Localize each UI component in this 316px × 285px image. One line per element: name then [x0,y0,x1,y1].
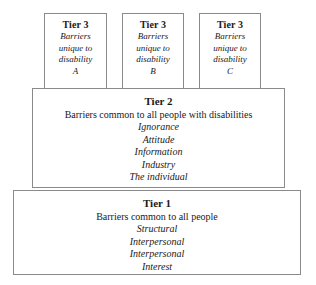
tier2-item-3: Information [33,146,284,159]
tier2-item-5: The individual [33,171,284,184]
tier2-heading: Tier 2 [33,94,284,108]
tier3-c-line-1: Barriers [200,31,260,43]
tier-pyramid-diagram: Tier 3 Barriers unique to disability A T… [0,0,316,285]
tier3-a-line-3: disability [45,54,106,66]
tier3-b-line-1: Barriers [123,31,183,43]
tier1-heading: Tier 1 [14,196,300,210]
tier3-box-a: Tier 3 Barriers unique to disability A [44,13,107,91]
tier3-c-line-4: C [200,66,260,78]
tier3-a-line-1: Barriers [45,31,106,43]
tier2-item-1: Ignorance [33,121,284,134]
tier3-b-heading: Tier 3 [123,19,183,31]
tier3-a-line-2: unique to [45,43,106,55]
tier1-item-1: Structural [14,223,300,236]
tier3-box-b: Tier 3 Barriers unique to disability B [122,13,184,91]
tier1-item-2: Interpersonal [14,236,300,249]
tier3-c-heading: Tier 3 [200,19,260,31]
tier2-box: Tier 2 Barriers common to all people wit… [32,88,285,188]
tier1-item-3: Interpersonal [14,248,300,261]
tier2-subheading: Barriers common to all people with disab… [33,108,284,121]
tier3-b-line-2: unique to [123,43,183,55]
tier3-a-line-4: A [45,66,106,78]
tier1-subheading: Barriers common to all people [14,210,300,223]
tier1-box: Tier 1 Barriers common to all people Str… [13,190,301,275]
tier1-item-4: Interest [14,261,300,274]
tier2-item-2: Attitude [33,134,284,147]
tier3-a-heading: Tier 3 [45,19,106,31]
tier2-item-4: Industry [33,159,284,172]
tier3-b-line-4: B [123,66,183,78]
tier3-c-line-3: disability [200,54,260,66]
tier3-b-line-3: disability [123,54,183,66]
tier3-c-line-2: unique to [200,43,260,55]
tier3-box-c: Tier 3 Barriers unique to disability C [199,13,261,91]
